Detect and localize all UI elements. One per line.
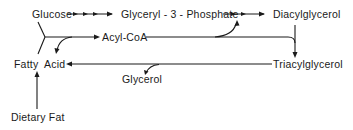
arrow-acyl-coa-to-triacylglycerol	[146, 25, 298, 58]
curved-arrow-acyl-coa-to-dag-step	[215, 20, 240, 37]
curved-arrow-to-fatty-acid	[55, 37, 73, 54]
node-dietary-fat: Dietary Fat	[11, 111, 65, 123]
arrow-triacylglycerol-to-fatty-acid	[66, 62, 272, 67]
node-triacylglycerol: Triacylglycerol	[273, 58, 343, 70]
node-glucose: Glucose	[32, 8, 72, 20]
node-glyceryl-3-phosphate: Glyceryl - 3 - Phosphate	[121, 8, 238, 20]
arrow-dietary-fat-to-fatty-acid	[35, 71, 40, 109]
node-acyl-coa: Acyl-CoA	[102, 31, 147, 43]
node-glycerol: Glycerol	[122, 73, 162, 85]
arrow-glucose-to-g3p	[67, 12, 113, 17]
node-diacylglycerol: Diacylglycerol	[273, 8, 341, 20]
node-fatty-acid: Fatty Acid	[14, 58, 65, 70]
lipid-metabolism-diagram: Glucose Glyceryl - 3 - Phosphate Diacylg…	[0, 0, 353, 130]
